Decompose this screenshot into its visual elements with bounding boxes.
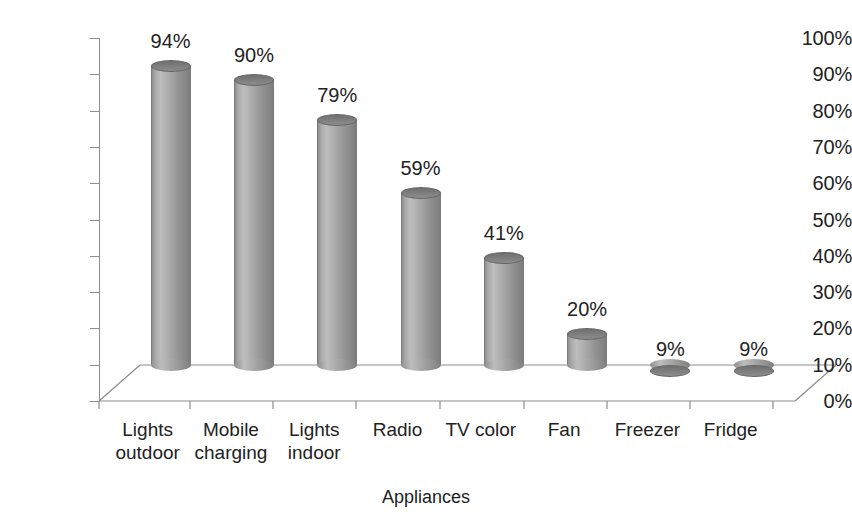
x-axis-category-label: Lights indoor [267,418,362,464]
cylinder-body [317,120,357,365]
cylinder-top-ellipse [650,365,690,377]
cylinder-bottom-ellipse [484,359,524,371]
x-axis-category-label: TV color [433,418,528,441]
cylinder-bottom-ellipse [317,359,357,371]
cylinder-top-ellipse [734,365,774,377]
bar-cylinder[interactable] [317,114,357,365]
cylinder-shape [317,114,357,365]
cylinder-bottom-ellipse [151,359,191,371]
cylinder-top-ellipse [401,187,441,199]
cylinder-bottom-ellipse [401,359,441,371]
bar-cylinder[interactable] [401,187,441,365]
bar-value-label: 41% [484,223,524,243]
cylinder-body [401,193,441,365]
chart-container: 0%10%20%30%40%50%60%70%80%90%100% 94%90%… [0,0,852,522]
bar-cylinder[interactable] [567,328,607,365]
x-axis-title: Appliances [0,487,852,507]
x-axis-category-label: Mobile charging [183,418,278,464]
cylinder-shape [401,187,441,365]
cylinder-bottom-ellipse [567,359,607,371]
bar-value-label: 79% [317,85,357,105]
cylinder-shape [567,328,607,365]
bar-cylinder[interactable] [234,74,274,365]
bar-value-label: 90% [234,45,274,65]
bar-value-label: 94% [151,31,191,51]
x-axis-category-label: Lights outdoor [100,418,195,464]
cylinder-body [151,66,191,365]
cylinder-top-ellipse [151,60,191,72]
bar-value-label: 59% [400,158,440,178]
cylinder-bottom-ellipse [234,359,274,371]
bar-value-label: 9% [656,339,685,359]
cylinder-body [234,80,274,365]
x-axis-category-label: Radio [350,418,445,441]
bar-value-label: 9% [739,339,768,359]
bar-cylinder[interactable] [484,252,524,365]
x-axis-category-label: Freezer [600,418,695,441]
x-axis-category-label: Fridge [683,418,778,441]
cylinder-shape [151,60,191,365]
bar-value-label: 20% [567,299,607,319]
cylinder-body [484,258,524,365]
x-axis-category-label: Fan [517,418,612,441]
bar-cylinder[interactable] [151,60,191,365]
cylinder-shape [484,252,524,365]
cylinder-shape [234,74,274,365]
